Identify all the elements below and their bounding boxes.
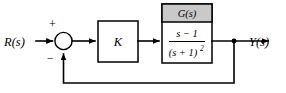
plant-numerator-label: s − 1: [176, 28, 198, 39]
input-label: R(s): [3, 35, 25, 49]
plant-denominator-label: (s + 1): [169, 47, 198, 59]
plant-denominator-exponent: 2: [200, 44, 204, 53]
block-diagram-figure: R(s) Y(s) K G(s) s − 1 (s + 1) 2 + −: [0, 0, 286, 93]
output-label: Y(s): [249, 35, 269, 49]
gain-label: K: [113, 35, 123, 49]
block-diagram-canvas: R(s) Y(s) K G(s) s − 1 (s + 1) 2 + −: [0, 0, 286, 93]
summing-junction: [55, 32, 72, 49]
plant-header-label: G(s): [178, 8, 197, 20]
sum-plus-sign: +: [49, 17, 56, 31]
sum-minus-sign: −: [47, 51, 54, 65]
